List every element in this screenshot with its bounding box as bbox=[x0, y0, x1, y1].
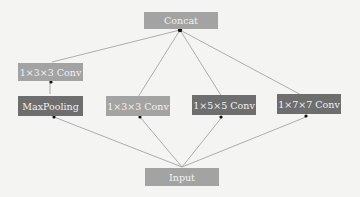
concat-node: Concat bbox=[144, 12, 218, 29]
input-node: Input bbox=[145, 168, 219, 186]
edge-input-conv3 bbox=[140, 117, 182, 167]
maxpool-label: MaxPooling bbox=[22, 101, 78, 112]
edge-input-conv5 bbox=[182, 117, 222, 167]
conv3-label: 1×3×3 Conv bbox=[107, 101, 169, 112]
conv-pool-node: 1×3×3 Conv bbox=[18, 63, 83, 81]
edge-conv3-concat bbox=[138, 30, 180, 97]
edge-conv5-concat bbox=[180, 30, 222, 97]
arrowhead-conv7 bbox=[304, 114, 307, 117]
concat-label: Concat bbox=[164, 15, 198, 26]
conv-pool-label: 1×3×3 Conv bbox=[20, 67, 82, 78]
input-label: Input bbox=[169, 172, 195, 183]
maxpool-node: MaxPooling bbox=[18, 96, 83, 116]
edge-input-conv7 bbox=[182, 117, 306, 167]
edge-input-maxpool bbox=[54, 117, 182, 167]
arrowhead-conv5 bbox=[219, 115, 222, 118]
conv7-label: 1×7×7 Conv bbox=[278, 99, 340, 110]
conv7-node: 1×7×7 Conv bbox=[277, 94, 341, 114]
edge-conv7-concat bbox=[180, 30, 305, 97]
conv5-node: 1×5×5 Conv bbox=[192, 95, 256, 115]
conv5-label: 1×5×5 Conv bbox=[193, 100, 255, 111]
conv3-node: 1×3×3 Conv bbox=[106, 96, 170, 116]
edge-convpool-concat bbox=[52, 30, 180, 62]
